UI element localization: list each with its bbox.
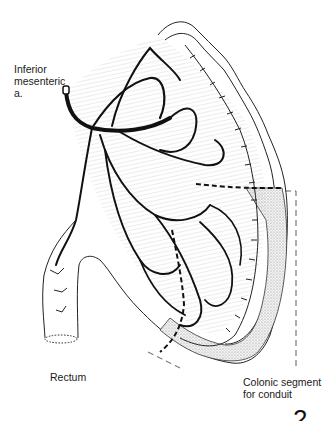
label-inferior-mesenteric-artery: Inferior mesenteric a. (14, 63, 65, 99)
label-rectum: Rectum (50, 371, 86, 383)
label-colonic-segment: Colonic segment for conduit (243, 376, 321, 400)
page-marker: 2 (293, 406, 307, 421)
